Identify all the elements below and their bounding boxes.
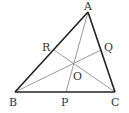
cevian-bq xyxy=(15,50,101,92)
label-r: R xyxy=(42,41,51,54)
triangle-diagram: A B C R Q P O xyxy=(0,0,129,113)
label-o: O xyxy=(73,70,82,83)
label-c: C xyxy=(111,96,119,109)
label-a: A xyxy=(83,0,93,13)
label-b: B xyxy=(9,96,17,109)
label-q: Q xyxy=(104,41,113,54)
cevian-cr xyxy=(54,50,115,92)
label-p: P xyxy=(61,96,69,109)
